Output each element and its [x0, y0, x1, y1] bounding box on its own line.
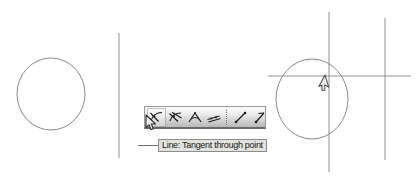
tool-button-line-through-two-points[interactable]: [166, 108, 185, 127]
tooltip-leader-line: [138, 145, 159, 146]
tool-button-ray[interactable]: [250, 108, 269, 127]
line-tools-toolbar[interactable]: [144, 106, 266, 129]
mouse-cursor-toolbar: [145, 114, 159, 132]
screenshot-root: Line: Tangent through point: [0, 0, 417, 176]
mouse-cursor-canvas: [318, 75, 333, 92]
tool-button-segment[interactable]: [231, 108, 250, 127]
segment-icon: [233, 110, 249, 125]
tool-tooltip: Line: Tangent through point: [158, 139, 267, 152]
tool-button-parallel-line[interactable]: [204, 108, 223, 127]
ray-icon: [252, 110, 268, 125]
circle-left[interactable]: [17, 58, 85, 130]
circle-right[interactable]: [276, 59, 348, 139]
parallel-lines-icon: [206, 110, 222, 125]
dotted-separator-icon: [226, 110, 228, 125]
angle-bisector-icon: [187, 110, 203, 125]
tool-button-angle-bisector[interactable]: [185, 108, 204, 127]
line-through-two-points-icon: [168, 110, 184, 125]
